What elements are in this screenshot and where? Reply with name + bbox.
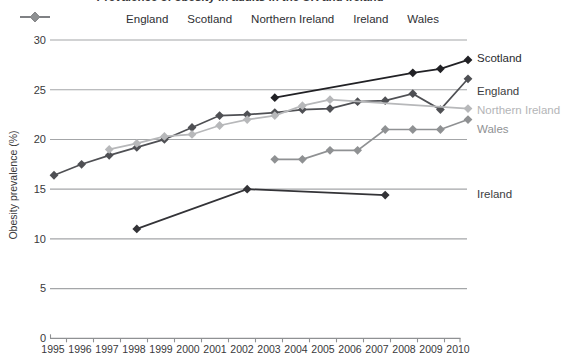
- data-point-wales-2009: [436, 125, 445, 134]
- series-line-scotland: [275, 60, 468, 98]
- series-end-label-scotland: Scotland: [477, 52, 522, 64]
- data-point-northern-ireland-2005: [326, 95, 335, 104]
- series-end-label-ireland: Ireland: [477, 188, 512, 200]
- y-tick-label: 30: [34, 34, 46, 46]
- data-point-scotland-2008: [408, 68, 417, 77]
- x-tick-label: 1997: [95, 343, 119, 355]
- x-tick-label: 1995: [41, 343, 65, 355]
- y-tick-label: 25: [34, 84, 46, 96]
- x-tick-label: 1998: [122, 343, 146, 355]
- x-tick-label: 2002: [230, 343, 254, 355]
- x-tick-label: 2004: [284, 343, 308, 355]
- series-line-ireland: [137, 189, 385, 229]
- x-tick-label: 2000: [176, 343, 200, 355]
- data-point-northern-ireland-2010: [464, 104, 473, 113]
- x-tick-label: 1999: [149, 343, 173, 355]
- x-tick-label: 2001: [203, 343, 227, 355]
- y-tick-label: 20: [34, 133, 46, 145]
- x-tick-label: 2005: [311, 343, 335, 355]
- plot-area: 0510152025301995199619971998199920002001…: [0, 0, 570, 358]
- data-point-england-2008: [408, 89, 417, 98]
- data-point-ireland-2002: [243, 185, 252, 194]
- series-end-label-northern-ireland: Northern Ireland: [477, 104, 560, 116]
- data-point-wales-2010: [464, 115, 473, 124]
- series-line-england: [54, 79, 468, 175]
- x-tick-label: 2006: [338, 343, 362, 355]
- data-point-wales-2004: [298, 155, 307, 164]
- y-tick-label: 15: [34, 183, 46, 195]
- series-end-label-wales: Wales: [477, 123, 509, 135]
- x-tick-label: 1996: [68, 343, 92, 355]
- data-point-england-2001: [215, 111, 224, 120]
- x-tick-label: 2003: [257, 343, 281, 355]
- data-point-scotland-2010: [464, 55, 473, 64]
- x-tick-label: 2009: [419, 343, 443, 355]
- x-tick-label: 2010: [446, 343, 470, 355]
- obesity-line-chart: Prevalence of obesity in adults in the U…: [0, 0, 570, 358]
- series-end-label-england: England: [477, 85, 519, 97]
- data-point-england-1995: [50, 171, 59, 180]
- x-tick-label: 2008: [392, 343, 416, 355]
- data-point-england-1996: [77, 160, 86, 169]
- y-tick-label: 10: [34, 233, 46, 245]
- data-point-ireland-1998: [132, 225, 141, 234]
- data-point-northern-ireland-1997: [105, 145, 114, 154]
- data-point-northern-ireland-2002: [243, 115, 252, 124]
- data-point-wales-2005: [326, 146, 335, 155]
- data-point-wales-2008: [408, 125, 417, 134]
- data-point-scotland-2009: [436, 64, 445, 73]
- data-point-ireland-2007: [381, 191, 390, 200]
- data-point-wales-2003: [270, 155, 279, 164]
- data-point-england-2005: [326, 104, 335, 113]
- data-point-northern-ireland-2001: [215, 121, 224, 130]
- y-tick-label: 5: [40, 282, 46, 294]
- data-point-scotland-2003: [270, 93, 279, 102]
- data-point-northern-ireland-2000: [188, 130, 197, 139]
- x-tick-label: 2007: [365, 343, 389, 355]
